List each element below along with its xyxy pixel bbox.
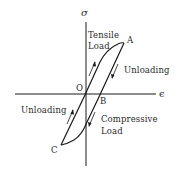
point-a-label: A	[127, 36, 133, 45]
arrow-unloading-down-icon	[111, 64, 118, 79]
point-origin-label: O	[76, 84, 83, 93]
stress-axis-label: σ	[81, 8, 88, 18]
compressive-load-curve	[61, 122, 87, 145]
hysteresis-diagram: σ ϵ O A B C Tensile Load Unloading Unloa…	[0, 0, 177, 178]
tensile-label-line2: Load	[88, 42, 110, 51]
compressive-label-line2: Load	[101, 127, 123, 136]
tensile-label-line1: Tensile	[88, 31, 119, 40]
arrow-unloading-up-icon	[67, 109, 74, 124]
unloading-left-label: Unloading	[21, 106, 67, 115]
arrow-compressive-down-icon	[88, 112, 95, 127]
point-b-label: B	[100, 97, 106, 106]
compressive-label-line1: Compressive	[101, 115, 158, 124]
unloading-compressive-line	[87, 43, 124, 122]
diagram-graphics	[0, 0, 177, 178]
unloading-right-label: Unloading	[124, 66, 170, 75]
strain-axis-label: ϵ	[159, 89, 165, 99]
point-c-label: C	[51, 146, 58, 155]
